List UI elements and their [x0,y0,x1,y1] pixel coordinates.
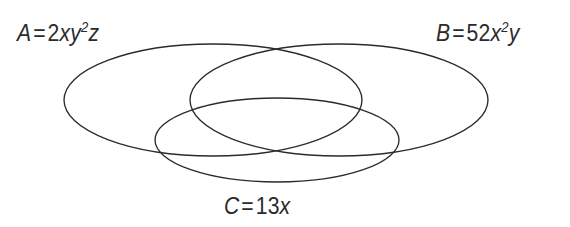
set-a-name: A [17,20,31,46]
set-b-term2: y [509,20,520,46]
venn-diagram-figure: A=2xy2z B=52x2y C=13x [0,0,570,227]
set-b-term1: x [490,20,501,46]
set-a-coefficient: 2 [48,20,60,46]
set-a-term1: x [59,20,70,46]
set-b-name: B [436,20,450,46]
set-b-term1-exponent: 2 [501,19,508,35]
set-c-equals: = [239,193,255,219]
set-a-term3: z [89,20,100,46]
set-a-label: A=2xy2z [17,22,99,45]
set-c-coefficient: 13 [256,193,280,219]
set-a-term2: y [70,20,81,46]
set-c-name: C [224,193,239,219]
set-b-equals: = [450,20,466,46]
ellipse-set-c [155,98,399,182]
set-b-label: B=52x2y [436,22,519,45]
set-c-label: C=13x [224,195,290,218]
set-b-coefficient: 52 [467,20,491,46]
set-a-equals: = [31,20,47,46]
set-c-term1: x [280,193,291,219]
set-a-term2-exponent: 2 [81,19,88,35]
